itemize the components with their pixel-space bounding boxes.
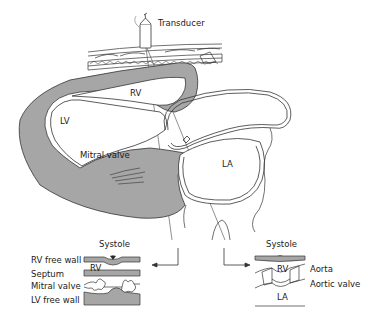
la-label: LA	[222, 160, 233, 169]
aorta-label: Aorta	[310, 265, 333, 274]
right-rv-label: RV	[277, 265, 288, 274]
transducer-icon	[135, 13, 151, 48]
rv-label: RV	[130, 89, 141, 98]
left-rv-label: RV	[90, 264, 101, 273]
right-la-label: LA	[277, 293, 288, 302]
aortic-valve-label: Aortic valve	[310, 280, 360, 289]
rv-free-wall-label: RV free wall	[31, 256, 81, 265]
lv-free-wall-label: LV free wall	[31, 296, 80, 305]
septum-label: Septum	[31, 270, 64, 279]
lv-label: LV	[60, 117, 70, 126]
left-systole-label: Systole	[99, 240, 130, 249]
left-mitral-valve-label: Mitral valve	[31, 282, 81, 291]
mitral-valve-label: Mitral valve	[80, 151, 130, 160]
right-systole-label: Systole	[266, 240, 297, 249]
heart-muscle	[19, 63, 198, 219]
left-atrium	[178, 139, 264, 205]
echocardiography-diagram: Transducer RV LV Mitral valve LA Systole…	[0, 0, 368, 321]
transducer-label: Transducer	[158, 19, 205, 28]
beam-arrows	[152, 248, 250, 267]
